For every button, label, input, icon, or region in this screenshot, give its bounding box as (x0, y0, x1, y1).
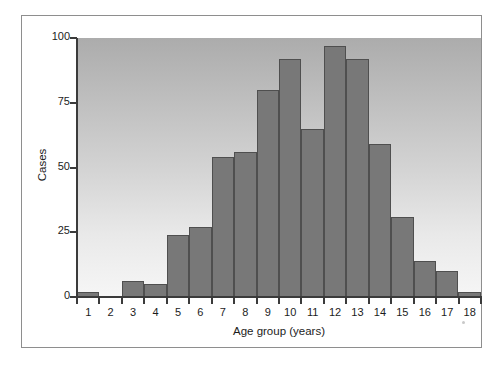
bar-slot (279, 38, 301, 297)
x-tick-mark (413, 298, 415, 304)
x-tick-label-1: 1 (77, 306, 99, 319)
x-tick-mark (211, 298, 213, 304)
y-tick-label-25: 25 (30, 225, 70, 236)
x-axis-title: Age group (years) (77, 325, 481, 337)
x-tick-mark (458, 298, 460, 304)
y-tick-label-75: 75 (30, 96, 70, 107)
bar-slot (212, 38, 234, 297)
bar-slot (122, 38, 144, 297)
y-tick-label-100: 100 (30, 31, 70, 42)
y-tick-mark (70, 167, 77, 169)
histogram-chart: 0255075100 123456789101112131415161718 A… (0, 0, 504, 369)
bar-age-15 (391, 217, 413, 297)
bar-age-17 (436, 271, 458, 297)
plot-panel (77, 38, 481, 297)
x-tick-label-5: 5 (167, 306, 189, 319)
x-tick-label-4: 4 (144, 306, 166, 319)
x-tick-mark (76, 298, 78, 304)
y-axis-title: Cases (36, 115, 48, 215)
x-tick-label-10: 10 (279, 306, 301, 319)
x-tick-mark (188, 298, 190, 304)
x-tick-label-12: 12 (324, 306, 346, 319)
y-tick-mark (70, 231, 77, 233)
y-tick-label-wrap: 25 (24, 231, 70, 233)
print-speck-artifact (462, 321, 465, 324)
bar-age-14 (369, 144, 391, 297)
x-tick-label-18: 18 (458, 306, 480, 319)
bar-slot (99, 38, 121, 297)
y-tick-label-0: 0 (30, 290, 70, 301)
bar-slot (301, 38, 323, 297)
x-tick-label-7: 7 (212, 306, 234, 319)
bar-age-13 (346, 59, 368, 297)
x-tick-label-13: 13 (346, 306, 368, 319)
bar-slot (391, 38, 413, 297)
bar-age-7 (212, 157, 234, 297)
bar-slot (414, 38, 436, 297)
x-tick-mark (435, 298, 437, 304)
x-tick-label-11: 11 (301, 306, 323, 319)
x-tick-mark (256, 298, 258, 304)
x-tick-mark (166, 298, 168, 304)
x-axis-tick-labels: 123456789101112131415161718 (77, 306, 481, 319)
bar-age-10 (279, 59, 301, 297)
x-tick-mark (233, 298, 235, 304)
x-tick-mark (98, 298, 100, 304)
x-tick-mark (143, 298, 145, 304)
x-tick-label-9: 9 (257, 306, 279, 319)
y-tick-label-wrap: 0 (24, 296, 70, 298)
y-tick-mark (70, 37, 77, 39)
x-tick-mark (390, 298, 392, 304)
x-tick-mark (480, 298, 482, 304)
y-tick-mark (70, 102, 77, 104)
bar-slot (458, 38, 480, 297)
bar-age-11 (301, 129, 323, 297)
bar-slot (324, 38, 346, 297)
x-tick-label-2: 2 (99, 306, 121, 319)
x-tick-label-14: 14 (369, 306, 391, 319)
bar-age-9 (257, 90, 279, 297)
bar-slot (257, 38, 279, 297)
bar-slot (234, 38, 256, 297)
x-tick-label-6: 6 (189, 306, 211, 319)
bar-age-16 (414, 261, 436, 297)
bar-slot (144, 38, 166, 297)
bar-age-5 (167, 235, 189, 297)
y-tick-label-wrap: 100 (24, 37, 70, 39)
bar-slot (346, 38, 368, 297)
bar-slot (77, 38, 99, 297)
x-tick-label-17: 17 (436, 306, 458, 319)
bar-age-6 (189, 227, 211, 297)
bar-slot (369, 38, 391, 297)
x-tick-label-3: 3 (122, 306, 144, 319)
bars-layer (77, 38, 481, 297)
x-tick-mark (368, 298, 370, 304)
bar-slot (167, 38, 189, 297)
x-tick-mark (300, 298, 302, 304)
bar-age-3 (122, 281, 144, 297)
x-tick-mark (345, 298, 347, 304)
bar-slot (436, 38, 458, 297)
x-tick-label-16: 16 (414, 306, 436, 319)
bar-slot (189, 38, 211, 297)
x-tick-mark (278, 298, 280, 304)
bar-age-8 (234, 152, 256, 297)
x-tick-mark (323, 298, 325, 304)
y-tick-label-wrap: 75 (24, 102, 70, 104)
x-tick-label-15: 15 (391, 306, 413, 319)
x-tick-label-8: 8 (234, 306, 256, 319)
bar-age-12 (324, 46, 346, 297)
x-tick-mark (121, 298, 123, 304)
